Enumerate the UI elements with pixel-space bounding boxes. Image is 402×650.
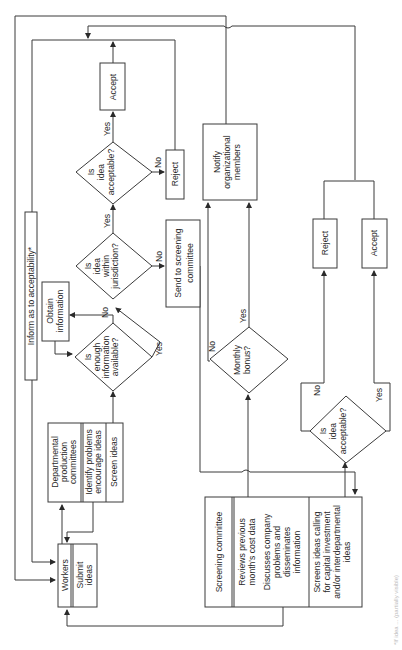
- workers-box: Workers Submit ideas: [58, 544, 97, 607]
- svg-text:No: No: [154, 251, 164, 262]
- svg-text:Reject: Reject: [170, 161, 180, 186]
- svg-text:Yes: Yes: [102, 122, 112, 136]
- svg-text:Screening committee: Screening committee: [214, 511, 224, 592]
- svg-text:Send to screening: Send to screening: [173, 228, 183, 297]
- svg-text:Monthly: Monthly: [232, 344, 242, 375]
- svg-text:Notify: Notify: [212, 150, 222, 173]
- svg-text:Accept: Accept: [108, 73, 118, 100]
- decision-monthly-bonus: Monthly bonus? No Yes: [207, 309, 288, 393]
- reject-box-right: Reject: [313, 219, 337, 268]
- notify-members-box: Notify organizational members: [203, 124, 257, 200]
- svg-text:No: No: [312, 385, 322, 396]
- svg-text:and/or interdepartmental: and/or interdepartmental: [332, 505, 342, 599]
- svg-text:problems and: problems and: [272, 526, 282, 578]
- svg-text:Yes: Yes: [374, 388, 384, 402]
- svg-text:Yes: Yes: [238, 309, 248, 323]
- flowchart: Accept Reject Is idea acceptable? Yes No…: [0, 0, 402, 650]
- svg-text:Obtain: Obtain: [45, 298, 55, 324]
- svg-text:acceptable?: acceptable?: [338, 408, 348, 455]
- svg-text:Yes: Yes: [154, 342, 164, 356]
- svg-text:ideas: ideas: [84, 565, 94, 586]
- accept-box-top: Accept: [100, 63, 125, 110]
- svg-text:Reject: Reject: [320, 230, 330, 255]
- svg-text:information: information: [55, 290, 65, 333]
- svg-text:members: members: [232, 144, 242, 180]
- svg-text:Is: Is: [318, 428, 328, 435]
- svg-text:disseminates: disseminates: [282, 527, 292, 577]
- decision-idea-acceptable-right: Is idea acceptable? No Yes: [310, 385, 386, 463]
- svg-text:month's cost data: month's cost data: [247, 518, 257, 585]
- svg-text:Discusses company: Discusses company: [262, 513, 272, 590]
- send-to-screening-box: Send to screening committee: [166, 220, 200, 307]
- departmental-committees-box: Departmental production committees Ident…: [48, 423, 123, 502]
- svg-text:No: No: [207, 341, 217, 352]
- svg-text:bonus?: bonus?: [242, 346, 252, 374]
- svg-text:idea: idea: [96, 164, 106, 180]
- reject-box-top: Reject: [166, 150, 184, 199]
- svg-text:idea: idea: [328, 423, 338, 439]
- svg-text:for capital investment: for capital investment: [322, 511, 332, 593]
- decision-idea-acceptable-top: Is idea acceptable? Yes No: [76, 122, 163, 204]
- svg-text:Screens ideas calling: Screens ideas calling: [312, 511, 322, 592]
- svg-text:Yes: Yes: [102, 214, 112, 228]
- svg-text:committee: committee: [185, 243, 195, 283]
- svg-text:acceptable?: acceptable?: [106, 149, 116, 196]
- svg-text:available?: available?: [110, 337, 120, 376]
- screening-committee-box: Screening committee Reviews previous mon…: [205, 497, 362, 607]
- svg-text:Inform as to acceptability*: Inform as to acceptability*: [26, 246, 36, 345]
- obtain-information-box: Obtain information: [42, 282, 69, 341]
- svg-text:organizational: organizational: [222, 135, 232, 189]
- svg-text:committees: committees: [68, 440, 78, 484]
- caption-fragment: *If idea ... (partially visible): [393, 575, 399, 645]
- svg-text:jurisdiction?: jurisdiction?: [110, 243, 120, 290]
- svg-text:Screen ideas: Screen ideas: [109, 437, 119, 487]
- inform-acceptability-bar: Inform as to acceptability*: [25, 212, 37, 380]
- svg-text:No: No: [100, 307, 110, 318]
- svg-text:Workers: Workers: [60, 559, 70, 591]
- svg-text:No: No: [153, 157, 163, 168]
- svg-text:Is: Is: [86, 169, 96, 176]
- decision-within-jurisdiction: Is idea within jurisdiction? Yes No: [76, 214, 164, 299]
- svg-text:encourage ideas: encourage ideas: [93, 430, 103, 494]
- accept-box-right: Accept: [362, 219, 387, 268]
- decision-enough-information: Is enough information available? No Yes: [75, 307, 164, 391]
- svg-text:Accept: Accept: [369, 229, 379, 256]
- svg-text:Reviews previous: Reviews previous: [237, 518, 247, 585]
- svg-text:information: information: [292, 531, 302, 574]
- svg-text:ideas: ideas: [342, 542, 352, 563]
